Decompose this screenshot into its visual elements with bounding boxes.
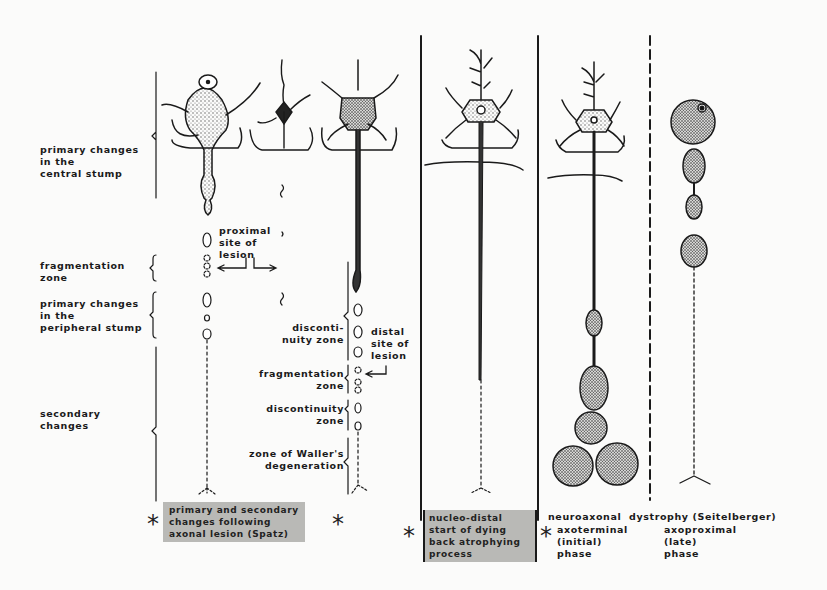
- asterisk-spatz-left: *: [147, 512, 159, 536]
- bracket-peripheral: [150, 292, 156, 338]
- caption-axoproximal: axoproximal (late) phase: [664, 524, 737, 560]
- caption-spatz: primary and secondary changes following …: [163, 502, 305, 542]
- bracket-central: [152, 72, 156, 198]
- label-waller-degeneration: zone of Waller's degeneration: [220, 448, 344, 472]
- bracket-discont-2: [345, 400, 348, 430]
- bracket-discontinuity-1: [344, 262, 348, 360]
- label-peripheral-stump: primary changes in the peripheral stump: [40, 298, 142, 334]
- asterisk-spatz-right: *: [332, 512, 344, 536]
- neuron-1: [162, 75, 260, 494]
- asterisk-dystrophy: *: [540, 524, 552, 548]
- caption-dystrophy-title: neuroaxonal dystrophy (Seitelberger): [548, 511, 776, 523]
- caption-axoterminal: axoterminal (initial) phase: [557, 524, 628, 560]
- label-secondary-changes: secondary changes: [40, 408, 101, 432]
- label-fragmentation-zone-2: fragmentation zone: [250, 368, 344, 392]
- bracket-secondary: [152, 347, 156, 501]
- distal-arrow: [366, 366, 386, 377]
- neuron-3: [322, 60, 398, 493]
- caption-dying-back: nucleo-distal start of dying back atroph…: [423, 510, 537, 562]
- label-distal-site: distal site of lesion: [371, 326, 409, 362]
- asterisk-dying-back: *: [403, 524, 415, 548]
- bracket-waller: [344, 438, 348, 494]
- label-central-stump: primary changes in the central stump: [40, 144, 139, 180]
- bracket-frag-2: [345, 365, 348, 393]
- label-discontinuity-zone-2: discontinuity zone: [250, 403, 344, 427]
- neuron-5: [548, 62, 638, 486]
- label-fragmentation-zone: fragmentation zone: [40, 260, 125, 284]
- label-proximal-site: proximal site of lesion: [219, 225, 271, 261]
- neuron-diagram: [0, 0, 827, 590]
- label-discontinuity-zone-1: disconti- nuity zone: [268, 322, 344, 346]
- bracket-frag: [150, 255, 156, 281]
- neuron-4: [425, 50, 523, 493]
- neuron-6: [671, 100, 715, 484]
